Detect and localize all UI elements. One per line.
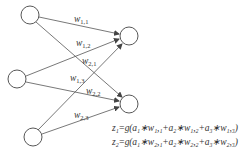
input-node-a2 (8, 70, 26, 88)
edge-w22 (26, 82, 119, 101)
input-node-a3 (24, 128, 42, 146)
weight-label-w22: w2,2 (86, 86, 100, 97)
weight-label-w21: w2,1 (82, 56, 96, 67)
weight-label-w12: w1,2 (76, 38, 90, 49)
weight-label-w13: w1,3 (70, 73, 84, 84)
output-node-z1 (120, 27, 138, 45)
weight-label-w23: w2,3 (74, 110, 88, 121)
output-node-z2 (120, 95, 138, 113)
formula-z1: z₁=g(a₁∗w₁,₁+a₂∗w₁,₂+a₃∗w₁,₃) (112, 122, 238, 133)
formula-z2: z₂=g(a₁∗w₂,₁+a₂∗w₂,₂+a₃∗w₂,₃) (112, 136, 238, 147)
input-node-a1 (21, 6, 39, 24)
weight-label-w11: w1,1 (74, 14, 88, 25)
edge-w12 (26, 39, 119, 76)
edge-w21 (36, 22, 122, 97)
